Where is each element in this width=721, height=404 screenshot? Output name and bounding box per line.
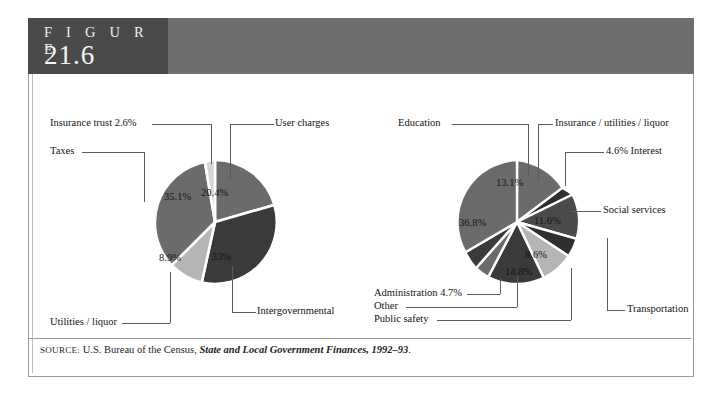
leader-admin-v [500, 278, 501, 294]
expenditures-pct-social: 11.6% [534, 216, 561, 227]
leader-other-h [406, 307, 517, 308]
leader-social-h [571, 211, 601, 212]
source-title: State and Local Government Finances, 199… [199, 344, 408, 355]
leader-insurance-trust-h [152, 124, 211, 125]
leader-utilities-h [122, 323, 170, 324]
expenditures-pct-public-safety: 14.8% [505, 267, 532, 278]
leader-education-v [528, 124, 529, 177]
source-prefix: SOURCE: [40, 345, 80, 355]
revenues-pct-user-charges: 20.4% [201, 188, 228, 199]
expenditures-callout-admin: Administration 4.7% [374, 288, 462, 299]
expenditures-callout-interest: 4.6% Interest [606, 146, 662, 157]
expenditures-callout-other: Other [374, 301, 398, 312]
leader-insurance-trust-v [211, 124, 212, 164]
expenditures-callout-education: Education [398, 118, 441, 129]
figure-container: F I G U R E 21.6 LOCAL GOVERNMENT REVENU… [0, 0, 721, 404]
leader-public-safety-h [437, 320, 571, 321]
figure-body-inner-rule [32, 70, 690, 373]
revenues-pct-intergovernmental: 33% [212, 252, 231, 263]
expenditures-callout-transport: Transportation [627, 304, 688, 315]
expenditures-pct-insurance: 13.1% [496, 178, 523, 189]
leader-intergov-v [232, 266, 233, 312]
leader-user-charges-v [230, 124, 231, 180]
expenditures-pct-education: 36.8% [459, 218, 486, 229]
leader-taxes-h [82, 152, 144, 153]
leader-interest-h [565, 152, 604, 153]
leader-other-v [517, 276, 518, 307]
revenues-callout-taxes: Taxes [50, 146, 74, 157]
expenditures-callout-insurance: Insurance / utilities / liquor [555, 118, 669, 129]
revenues-callout-user-charges: User charges [275, 118, 329, 129]
revenues-pie-chart [150, 157, 280, 287]
leader-transport-v [607, 238, 608, 310]
leader-ins-v [538, 124, 539, 180]
revenues-callout-insurance-trust: Insurance trust 2.6% [50, 118, 137, 129]
leader-interest-v [565, 152, 566, 186]
revenues-pct-taxes: 35.1% [164, 192, 191, 203]
leader-public-safety-v [571, 268, 572, 320]
leader-intergov-h [232, 312, 256, 313]
revenues-pct-utilities: 8.9% [159, 253, 181, 264]
leader-admin-h [467, 294, 500, 295]
source-period: . [408, 344, 411, 355]
leader-transport-h [607, 310, 625, 311]
leader-education-h [452, 124, 528, 125]
leader-user-charges-h [230, 124, 274, 125]
leader-ins-h [538, 124, 553, 125]
source-line: SOURCE: U.S. Bureau of the Census, State… [40, 344, 411, 355]
leader-taxes-v [144, 152, 145, 202]
revenues-callout-utilities-liquor: Utilities / liquor [50, 317, 117, 328]
revenues-pie-svg [150, 157, 280, 287]
expenditures-callout-public-safety: Public safety [374, 314, 429, 325]
header-figure-block: F I G U R E 21.6 [28, 18, 168, 74]
header-title-block [168, 18, 694, 74]
source-divider [29, 338, 691, 339]
figure-number: 21.6 [44, 40, 95, 71]
expenditures-callout-social: Social services [603, 205, 666, 216]
revenues-callout-intergovernmental: Intergovernmental [257, 306, 334, 317]
expenditures-pct-transport: 8.6% [525, 250, 547, 261]
leader-utilities-v [170, 272, 171, 323]
figure-header: F I G U R E 21.6 LOCAL GOVERNMENT REVENU… [28, 18, 694, 74]
source-text: U.S. Bureau of the Census, [80, 344, 199, 355]
